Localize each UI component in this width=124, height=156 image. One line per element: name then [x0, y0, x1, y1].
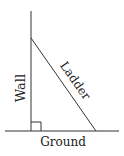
ladder-label: Ladder — [57, 59, 93, 103]
ground-label: Ground — [40, 135, 86, 149]
wall-label: Wall — [13, 74, 28, 102]
right-angle-marker — [31, 122, 41, 131]
ladder-diagram: Wall Ladder Ground — [0, 0, 124, 156]
